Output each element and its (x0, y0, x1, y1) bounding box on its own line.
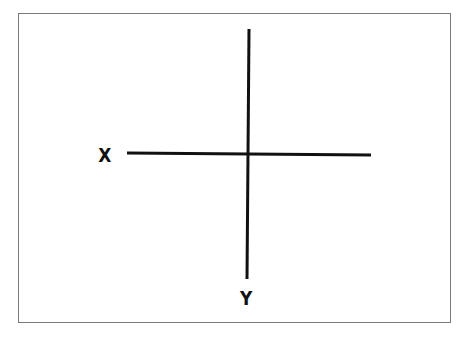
y-axis-label: Y (240, 288, 252, 308)
x-axis-label: X (98, 145, 111, 165)
y-axis-line (247, 29, 249, 279)
axes-graphic (0, 0, 468, 342)
